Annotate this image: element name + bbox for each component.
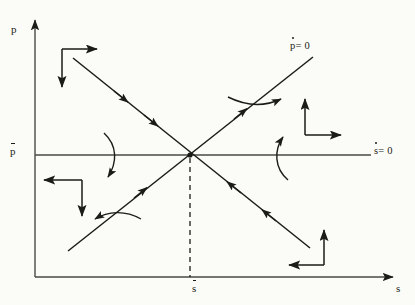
saddle-arrowhead-ul-1	[114, 91, 128, 102]
pdot-zero-label-rest: = 0	[295, 40, 309, 51]
phase-diagram-figure: p s p s p= 0 s= 0	[0, 0, 415, 305]
pdot-locus-arrowhead-lower	[134, 188, 147, 198]
y-axis-label: p	[11, 24, 17, 35]
direction-field-top-left	[62, 49, 97, 87]
sdot-zero-label: s= 0	[374, 146, 393, 157]
x-axis-label: s	[396, 283, 400, 294]
direction-field-bottom-left	[44, 180, 82, 216]
x-tick-label-sbar-text: s	[192, 283, 196, 294]
direction-field-top-right	[305, 99, 341, 135]
y-tick-label-pbar-text: p	[10, 146, 16, 157]
rotation-arrow-right	[277, 137, 288, 180]
sdot-zero-label-rest: = 0	[378, 145, 392, 156]
x-tick-label-sbar: s	[192, 283, 196, 294]
sdot-zero-label-symbol: s	[374, 146, 378, 157]
rotation-arrow-group	[95, 97, 288, 219]
saddle-arrowhead-lr-1	[227, 182, 241, 193]
saddle-arrowhead-ul-2	[144, 115, 158, 126]
y-tick-label-pbar: p	[10, 146, 16, 157]
phase-diagram-canvas	[0, 0, 415, 305]
pdot-zero-label-symbol: p	[290, 41, 295, 52]
pdot-zero-label: p= 0	[290, 41, 310, 52]
equilibrium-point	[187, 152, 192, 157]
rotation-arrow-lower	[95, 213, 141, 219]
axis-group	[35, 20, 393, 277]
saddle-arrowhead-lr-2	[262, 210, 276, 221]
pdot-locus-arrowhead-upper	[234, 109, 247, 119]
